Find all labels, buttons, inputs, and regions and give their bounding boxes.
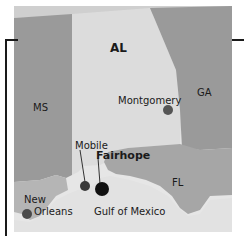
water-label-gulf-of-mexico: Gulf of Mexico [94, 207, 165, 217]
state-label-ga: GA [197, 88, 212, 98]
state-ms [14, 14, 72, 182]
city-label-new-orleans-line1: New [24, 195, 46, 205]
city-marker-fairhope[interactable] [95, 182, 109, 196]
city-marker-mobile[interactable] [80, 181, 90, 191]
state-label-al: AL [110, 42, 127, 54]
city-marker-montgomery[interactable] [163, 105, 173, 115]
city-marker-new-orleans[interactable] [22, 209, 32, 219]
city-label-new-orleans-line2: Orleans [34, 207, 73, 217]
city-label-fairhope: Fairhope [96, 150, 150, 161]
state-label-ms: MS [33, 103, 48, 113]
state-label-fl: FL [172, 178, 183, 188]
city-label-montgomery: Montgomery [118, 96, 181, 106]
